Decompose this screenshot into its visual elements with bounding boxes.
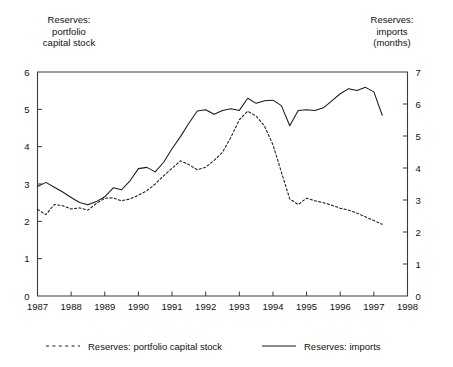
x-tick-label: 1987 — [27, 301, 48, 312]
y-axis-right-tick-label: 5 — [416, 131, 421, 142]
right-axis-title: Reserves: imports (months) — [337, 14, 447, 49]
x-tick-label: 1994 — [262, 301, 283, 312]
chart-legend: Reserves: portfolio capital stockReserve… — [46, 341, 381, 352]
y-axis-left-ticks: 0123456 — [24, 67, 42, 302]
chart-figure: Reserves: portfolio capital stock Reserv… — [0, 0, 453, 367]
x-tick-label: 1990 — [128, 301, 149, 312]
y-axis-left-tick-label: 6 — [24, 67, 29, 78]
legend-label-1: Reserves: portfolio capital stock — [88, 341, 222, 352]
series-line-2 — [38, 87, 383, 204]
x-tick-label: 1991 — [161, 301, 182, 312]
y-axis-left-tick-label: 3 — [24, 179, 29, 190]
data-series-group — [38, 87, 383, 224]
x-axis-ticks: 1987198819891990199119921993199419951996… — [27, 292, 418, 313]
y-axis-right-tick-label: 0 — [416, 291, 421, 302]
plot-frame — [38, 72, 408, 296]
y-axis-right-tick-label: 6 — [416, 99, 421, 110]
y-axis-left-tick-label: 2 — [24, 216, 29, 227]
x-tick-label: 1996 — [330, 301, 351, 312]
series-line-1 — [38, 111, 383, 224]
x-tick-label: 1993 — [229, 301, 250, 312]
y-axis-right-tick-label: 1 — [416, 259, 421, 270]
y-axis-right-ticks: 01234567 — [403, 67, 421, 302]
legend-label-2: Reserves: imports — [304, 341, 381, 352]
y-axis-left-tick-label: 5 — [24, 104, 29, 115]
x-tick-label: 1998 — [397, 301, 418, 312]
y-axis-right-tick-label: 7 — [416, 67, 421, 78]
y-axis-right-tick-label: 3 — [416, 195, 421, 206]
y-axis-right-tick-label: 4 — [416, 163, 421, 174]
line-chart-plot: 1987198819891990199119921993199419951996… — [0, 0, 453, 367]
x-tick-label: 1988 — [61, 301, 82, 312]
y-axis-right-tick-label: 2 — [416, 227, 421, 238]
x-tick-label: 1989 — [94, 301, 115, 312]
x-tick-label: 1997 — [363, 301, 384, 312]
x-tick-label: 1992 — [195, 301, 216, 312]
y-axis-left-tick-label: 4 — [24, 141, 29, 152]
y-axis-left-tick-label: 0 — [24, 291, 29, 302]
x-tick-label: 1995 — [296, 301, 317, 312]
left-axis-title: Reserves: portfolio capital stock — [14, 14, 124, 49]
y-axis-left-tick-label: 1 — [24, 253, 29, 264]
